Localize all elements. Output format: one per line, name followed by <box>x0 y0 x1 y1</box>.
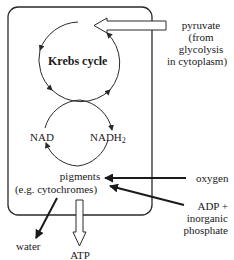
atp-label: ATP <box>70 249 90 260</box>
water-label: water <box>16 240 41 252</box>
respiration-diagram: Krebs cycle NAD NADH2 pigments (e.g. cyt… <box>0 0 234 260</box>
pigments-label: pigments <box>60 170 100 182</box>
water-output-arrow <box>36 198 57 238</box>
pyruvate-label: pyruvate (from glycolysis in cytoplasm) <box>167 19 228 68</box>
svg-text:pyruvate: pyruvate <box>182 19 221 31</box>
svg-text:ADP +: ADP + <box>197 200 228 212</box>
atp-output-arrow <box>73 200 86 246</box>
svg-text:phosphate: phosphate <box>183 224 228 236</box>
nadh2-label: NADH2 <box>90 131 126 145</box>
svg-text:inorganic: inorganic <box>187 212 228 224</box>
svg-text:in cytoplasm): in cytoplasm) <box>167 55 228 68</box>
adp-input-arrow <box>110 186 184 205</box>
nad-label: NAD <box>30 131 54 143</box>
pyruvate-input-arrow <box>94 18 166 33</box>
oxygen-label: oxygen <box>196 172 229 184</box>
pigments-example-label: (e.g. cytochromes) <box>15 183 97 196</box>
krebs-cycle-label: Krebs cycle <box>48 54 108 68</box>
adp-label: ADP + inorganic phosphate <box>183 200 228 236</box>
svg-text:glycolysis: glycolysis <box>179 43 224 55</box>
